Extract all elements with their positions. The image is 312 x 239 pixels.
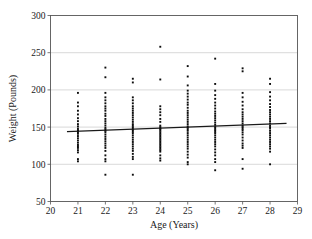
data-point: [104, 145, 106, 147]
data-point: [132, 108, 134, 110]
data-point: [269, 114, 271, 116]
data-point: [132, 148, 134, 150]
data-point: [159, 79, 161, 81]
data-point: [269, 96, 271, 98]
data-point: [242, 67, 244, 69]
data-point: [187, 90, 189, 92]
data-point: [242, 101, 244, 103]
data-point: [77, 135, 79, 137]
y-axis-title: Weight (Pounds): [7, 75, 19, 142]
data-point: [77, 105, 79, 107]
data-point: [132, 156, 134, 158]
data-point: [132, 134, 134, 136]
data-point: [269, 145, 271, 147]
data-point: [214, 122, 216, 124]
data-point: [132, 137, 134, 139]
data-point: [187, 139, 189, 141]
scatter-plot-figure: 20212223242526272829 50100150200250300 A…: [0, 0, 312, 239]
data-point: [242, 111, 244, 113]
data-point: [132, 145, 134, 147]
data-point: [269, 83, 271, 85]
data-points: [77, 46, 271, 176]
data-point: [77, 140, 79, 142]
data-point: [214, 115, 216, 117]
data-point: [269, 137, 271, 139]
data-point: [214, 58, 216, 60]
data-point: [269, 106, 271, 108]
data-point: [104, 138, 106, 140]
data-point: [214, 94, 216, 96]
data-point: [269, 116, 271, 118]
data-point: [104, 102, 106, 104]
x-tick-label: 20: [46, 206, 56, 216]
data-point: [214, 161, 216, 163]
data-point: [104, 174, 106, 176]
data-point: [159, 46, 161, 48]
data-point: [242, 70, 244, 72]
data-point: [132, 96, 134, 98]
data-point: [77, 149, 79, 151]
data-point: [159, 105, 161, 107]
data-point: [242, 96, 244, 98]
data-point: [159, 154, 161, 156]
data-point: [187, 104, 189, 106]
data-point: [269, 132, 271, 134]
data-point: [159, 111, 161, 113]
data-point: [242, 145, 244, 147]
gridlines: [51, 53, 298, 165]
data-point: [187, 99, 189, 101]
data-point: [242, 140, 244, 142]
data-point: [269, 134, 271, 136]
data-point: [214, 117, 216, 119]
data-point: [214, 124, 216, 126]
data-point: [132, 143, 134, 145]
x-tick-label: 25: [183, 206, 193, 216]
data-point: [104, 122, 106, 124]
data-point: [77, 114, 79, 116]
data-point: [159, 157, 161, 159]
data-point: [159, 121, 161, 123]
data-point: [159, 151, 161, 153]
data-point: [187, 161, 189, 163]
data-point: [104, 160, 106, 162]
data-point: [77, 137, 79, 139]
x-tick-label: 27: [238, 206, 248, 216]
data-point: [242, 108, 244, 110]
data-point: [104, 76, 106, 78]
data-point: [242, 105, 244, 107]
x-axis-title: Age (Years): [150, 219, 198, 231]
data-point: [104, 105, 106, 107]
data-point: [187, 84, 189, 86]
data-point: [77, 110, 79, 112]
data-point: [132, 174, 134, 176]
data-point: [187, 102, 189, 104]
data-point: [214, 141, 216, 143]
data-point: [187, 163, 189, 165]
data-point: [104, 150, 106, 152]
data-point: [242, 143, 244, 145]
data-point: [187, 132, 189, 134]
data-point: [242, 168, 244, 170]
data-point: [132, 116, 134, 118]
data-point: [187, 137, 189, 139]
data-point: [104, 96, 106, 98]
x-tick-label: 29: [293, 206, 303, 216]
data-point: [104, 92, 106, 94]
data-point: [132, 121, 134, 123]
data-point: [242, 129, 244, 131]
x-axis-ticks: 20212223242526272829: [46, 202, 303, 217]
data-point: [77, 142, 79, 144]
data-point: [104, 125, 106, 127]
data-point: [104, 118, 106, 120]
data-point: [269, 109, 271, 111]
data-point: [132, 102, 134, 104]
data-point: [132, 110, 134, 112]
x-tick-label: 23: [128, 206, 138, 216]
data-point: [77, 92, 79, 94]
data-point: [187, 151, 189, 153]
data-point: [242, 118, 244, 120]
data-point: [187, 154, 189, 156]
data-point: [269, 141, 271, 143]
data-point: [132, 139, 134, 141]
data-point: [242, 134, 244, 136]
